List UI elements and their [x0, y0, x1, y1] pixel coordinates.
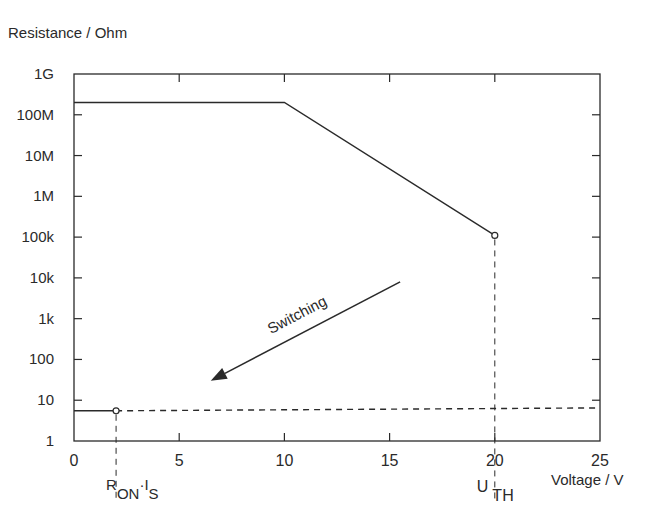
- x-tick-label: 0: [70, 452, 79, 469]
- on-label-r: R: [106, 476, 117, 493]
- plot-frame: [74, 74, 600, 441]
- on-label-on: ON: [117, 485, 140, 502]
- x-tick-label: 15: [381, 452, 399, 469]
- y-tick-label: 100M: [16, 106, 54, 123]
- y-axis-label: Resistance / Ohm: [8, 24, 127, 41]
- y-tick-label: 10: [37, 391, 54, 408]
- x-tick-label: 25: [591, 452, 609, 469]
- y-tick-label: 100: [29, 350, 54, 367]
- y-tick-label: 10k: [30, 269, 55, 286]
- annotations: UTHRON·ISSwitching: [106, 282, 514, 504]
- switching-arrow-head: [211, 368, 228, 381]
- y-tick-label: 1G: [34, 65, 54, 82]
- threshold-label-sub: TH: [492, 487, 513, 504]
- threshold-point: [492, 232, 498, 238]
- on-label-s: S: [149, 485, 159, 502]
- y-tick-label: 10M: [25, 147, 54, 164]
- y-ticks: 1101001k10k100k1M10M100M1G: [16, 65, 600, 449]
- x-tick-label: 10: [276, 452, 294, 469]
- y-tick-label: 1M: [33, 187, 54, 204]
- x-axis-label: Voltage / V: [551, 471, 624, 488]
- y-tick-label: 100k: [21, 228, 54, 245]
- y-tick-label: 1: [46, 432, 54, 449]
- x-tick-label: 5: [175, 452, 184, 469]
- on-label: RON·IS: [106, 476, 159, 502]
- switching-label: Switching: [265, 292, 330, 337]
- series-line: [74, 103, 495, 236]
- axes: [74, 74, 600, 441]
- y-tick-label: 1k: [38, 310, 54, 327]
- series-line: [116, 408, 600, 411]
- on-point: [113, 408, 119, 414]
- resistance-voltage-chart: Resistance / Ohm 1101001k10k100k1M10M100…: [0, 0, 660, 519]
- threshold-label-main: U: [477, 478, 489, 495]
